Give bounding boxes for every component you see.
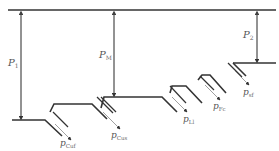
p-fc-label: pFc bbox=[213, 101, 226, 112]
pressure-stage-diagram: P1 PM P2 pCuf pCus pLl p bbox=[0, 0, 279, 151]
p-cus-label: pCus bbox=[111, 130, 128, 141]
p1-label: P1 bbox=[7, 57, 19, 69]
p-cuf-label: pCuf bbox=[60, 138, 77, 149]
cus-arrow bbox=[103, 112, 119, 128]
p-ll-label: pLl bbox=[183, 114, 194, 125]
stage-profile bbox=[12, 63, 276, 136]
stage-diagonals bbox=[53, 63, 242, 127]
p-sf-label: psf bbox=[243, 87, 255, 98]
sf-arrow bbox=[235, 71, 248, 84]
pm-label: PM bbox=[98, 49, 112, 61]
p2-label: P2 bbox=[242, 29, 254, 41]
fc-arrow bbox=[205, 85, 219, 99]
stage-output-arrows bbox=[55, 71, 248, 139]
